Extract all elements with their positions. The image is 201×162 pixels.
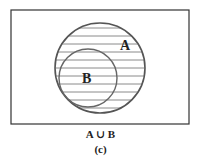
set-a-label: A	[120, 38, 131, 53]
set-b-label: B	[82, 71, 91, 86]
caption-expression: A ∪ B	[0, 128, 201, 141]
caption-sublabel: (c)	[0, 143, 201, 155]
